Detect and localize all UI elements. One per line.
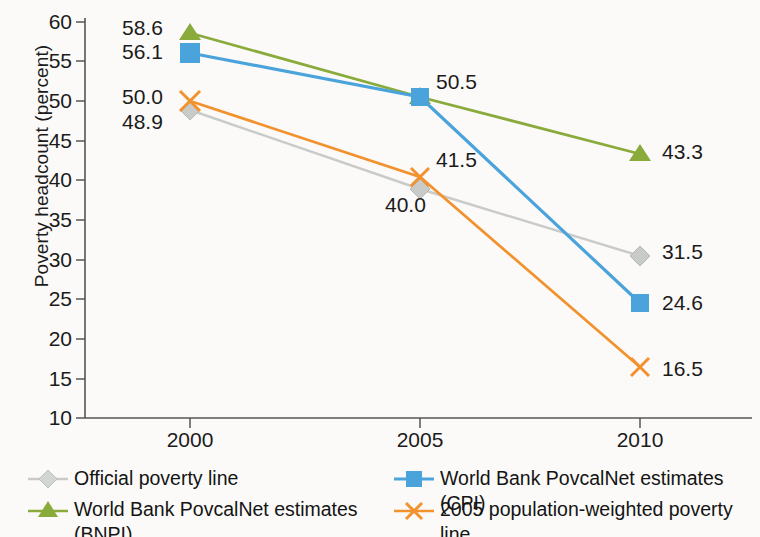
- legend-entry-official-poverty-line[interactable]: Official poverty line: [26, 466, 238, 492]
- y-tick-label: 40: [26, 168, 72, 192]
- y-tick-label: 45: [26, 129, 72, 153]
- x-tick-label: 2000: [145, 428, 235, 452]
- legend-entry-povcalnet-bnpi[interactable]: World Bank PovcalNet estimates (BNPI): [26, 497, 358, 537]
- x-axis-ticks: [190, 418, 640, 428]
- data-label: 58.6: [122, 16, 163, 40]
- y-tick-label: 50: [26, 89, 72, 113]
- data-label: 50.5: [436, 70, 477, 94]
- y-tick-label: 30: [26, 248, 72, 272]
- y-tick-label: 20: [26, 327, 72, 351]
- y-tick-label: 25: [26, 287, 72, 311]
- legend-marker-square-icon: [392, 466, 436, 492]
- data-point-marker: [411, 88, 429, 106]
- data-label: 50.0: [122, 85, 163, 109]
- data-label: 56.1: [122, 40, 163, 64]
- legend-label: Official poverty line: [74, 466, 238, 491]
- data-point-marker: [631, 358, 649, 376]
- data-label: 24.6: [662, 291, 703, 315]
- y-axis-ticks: [76, 22, 85, 418]
- y-tick-label: 15: [26, 367, 72, 391]
- plot-area: 60 55 50 45 40 35 30 25 20 15 10 2000 20…: [0, 0, 760, 460]
- legend-marker-triangle-icon: [26, 497, 70, 523]
- data-point-marker: [179, 23, 201, 40]
- data-label: 31.5: [662, 240, 703, 264]
- x-tick-label: 2010: [595, 428, 685, 452]
- series-population-weighted-cpi: [180, 91, 649, 376]
- legend-marker-x-icon: [392, 497, 436, 523]
- legend-label: World Bank PovcalNet estimates (BNPI): [74, 497, 358, 537]
- legend-marker-diamond-icon: [26, 466, 70, 492]
- data-label: 48.9: [122, 110, 163, 134]
- data-label: 40.0: [385, 193, 426, 217]
- data-point-marker: [630, 246, 650, 266]
- legend-entry-population-weighted-cpi[interactable]: 2005 population-weighted poverty line (C…: [392, 497, 760, 537]
- data-label: 16.5: [662, 357, 703, 381]
- x-tick-label: 2005: [375, 428, 465, 452]
- y-tick-label: 60: [26, 10, 72, 34]
- data-point-marker: [180, 43, 200, 63]
- chart-legend: Official poverty line World Bank PovcalN…: [0, 460, 760, 537]
- series-povcalnet-cpi: [180, 43, 649, 312]
- legend-label: 2005 population-weighted poverty line (C…: [440, 497, 760, 537]
- y-tick-label: 10: [26, 406, 72, 430]
- data-point-marker: [631, 294, 649, 312]
- y-tick-label: 35: [26, 208, 72, 232]
- chart-figure: Poverty headcount (percent) 60 55 50 45 …: [0, 0, 760, 537]
- data-label: 41.5: [436, 148, 477, 172]
- chart-canvas: [0, 0, 760, 460]
- y-tick-label: 55: [26, 49, 72, 73]
- data-label: 43.3: [662, 140, 703, 164]
